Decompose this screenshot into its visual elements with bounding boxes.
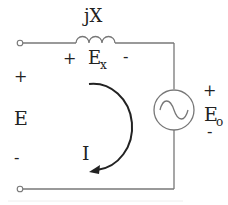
reactance-plus: + bbox=[63, 49, 76, 68]
source-voltage-label: E bbox=[14, 107, 28, 129]
bottom-terminal[interactable] bbox=[17, 186, 23, 192]
reactance-voltage-sub: x bbox=[100, 58, 107, 72]
current-arrow bbox=[89, 84, 132, 170]
sine-wave-icon bbox=[160, 101, 188, 119]
generator-minus: - bbox=[207, 122, 212, 141]
generator-voltage-sub: o bbox=[216, 115, 223, 129]
top-terminal[interactable] bbox=[17, 40, 23, 46]
source-plus: + bbox=[14, 67, 27, 86]
current-label: I bbox=[82, 142, 90, 164]
source-minus: - bbox=[14, 148, 19, 167]
reactance-label: jX bbox=[82, 5, 103, 26]
reactance-minus: - bbox=[123, 47, 128, 66]
generator-plus: + bbox=[203, 81, 216, 100]
inductor-coil bbox=[76, 37, 115, 43]
circuit-diagram: jX + E x - + E - + E o - I bbox=[0, 0, 228, 205]
arrow-head-icon bbox=[89, 165, 100, 174]
